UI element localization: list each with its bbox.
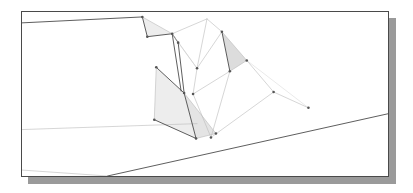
upper-ground-plane xyxy=(22,17,251,131)
lower-bench-line xyxy=(22,170,108,176)
3d-model-canvas[interactable] xyxy=(22,12,388,176)
vertex-quad-bottom[interactable] xyxy=(195,137,198,140)
vertex-notch-left[interactable] xyxy=(146,35,149,38)
right-node-to-shelf xyxy=(247,60,274,92)
vertex-pit-floor[interactable] xyxy=(215,132,218,135)
shelf-to-ground xyxy=(247,60,309,107)
vertex-notch-right[interactable] xyxy=(171,32,174,35)
vertex-right-base[interactable] xyxy=(229,70,232,73)
vertex-center-node[interactable] xyxy=(196,67,199,70)
vertex-quad-top-left[interactable] xyxy=(155,66,158,69)
wireframe-drawing-viewport[interactable] xyxy=(21,11,389,177)
apex-to-right-peak xyxy=(207,19,222,32)
screenshot-root xyxy=(0,0,413,193)
vertex-right-peak[interactable] xyxy=(221,30,224,33)
vertex-top-crest[interactable] xyxy=(141,16,144,19)
vertex-shelf-mid[interactable] xyxy=(272,91,275,94)
vertex-quad-fold[interactable] xyxy=(183,92,186,95)
vertex-lower-node[interactable] xyxy=(192,93,195,96)
vertex-right-out[interactable] xyxy=(245,59,248,62)
vertex-shelf-right[interactable] xyxy=(307,107,310,110)
vertex-quad-bottom-left[interactable] xyxy=(153,118,156,121)
vertex-shelf-left[interactable] xyxy=(210,136,213,139)
apex-to-crest xyxy=(172,19,207,34)
vertex-crest-knee[interactable] xyxy=(177,41,180,44)
ground-planes-layer xyxy=(22,17,388,175)
